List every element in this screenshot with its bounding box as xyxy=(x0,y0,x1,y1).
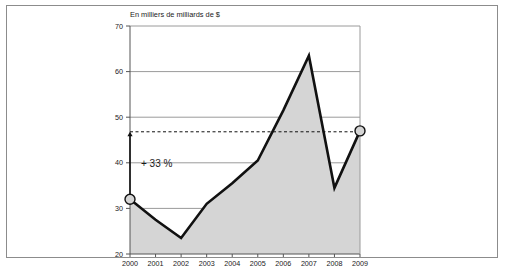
x-tick-label-2002: 2002 xyxy=(173,259,189,268)
chart-area: En milliers de milliards de $ 2030405060… xyxy=(0,0,506,272)
x-tick-label-2009: 2009 xyxy=(352,259,368,268)
y-axis-ticks: 203040506070 xyxy=(115,22,130,259)
x-tick-label-2008: 2008 xyxy=(326,259,342,268)
y-tick-label-50: 50 xyxy=(115,113,123,122)
figure-root: En milliers de milliards de $ 2030405060… xyxy=(0,0,506,272)
y-tick-label-70: 70 xyxy=(115,22,123,31)
area-fill xyxy=(130,56,360,254)
x-tick-label-2004: 2004 xyxy=(224,259,240,268)
y-tick-label-40: 40 xyxy=(115,158,123,167)
data-point-marker-2009 xyxy=(355,126,365,136)
x-tick-label-2000: 2000 xyxy=(122,259,138,268)
x-tick-label-2003: 2003 xyxy=(199,259,215,268)
x-tick-label-2007: 2007 xyxy=(301,259,317,268)
x-tick-label-2001: 2001 xyxy=(148,259,164,268)
x-axis-ticks: 2000200120022003200420052006200720082009 xyxy=(122,254,368,268)
growth-connector-arrowhead xyxy=(127,132,132,137)
growth-annotation-label: + 33 % xyxy=(141,158,173,169)
chart-title: En milliers de milliards de $ xyxy=(130,10,220,19)
x-tick-label-2006: 2006 xyxy=(275,259,291,268)
y-tick-label-60: 60 xyxy=(115,67,123,76)
y-tick-label-20: 20 xyxy=(115,250,123,259)
data-point-marker-2000 xyxy=(125,194,135,204)
y-tick-label-30: 30 xyxy=(115,204,123,213)
chart-svg: En milliers de milliards de $ 2030405060… xyxy=(0,0,506,272)
x-tick-label-2005: 2005 xyxy=(250,259,266,268)
